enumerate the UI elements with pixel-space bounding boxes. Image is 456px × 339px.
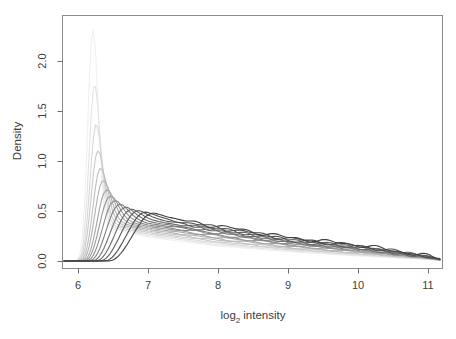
y-tick-label-0.0: 0.0 [36,253,48,268]
plot-canvas [0,0,456,339]
y-tick-label-1.5: 1.5 [36,103,48,118]
x-axis-title-subscript: 2 [236,316,240,325]
x-tick-label-7: 7 [145,279,151,291]
x-tick-label-6: 6 [75,279,81,291]
x-axis-title-prefix: log [221,309,236,321]
y-tick-label-2.0: 2.0 [36,53,48,68]
density-plot-figure: 6 7 8 9 10 11 0.0 0.5 1.0 1.5 2.0 log2in… [0,0,456,339]
density-curves [64,29,440,261]
x-tick-label-11: 11 [422,279,433,291]
x-tick-label-9: 9 [285,279,291,291]
x-axis-title: log2intensity [221,309,286,324]
y-tick-label-0.5: 0.5 [36,203,48,218]
x-axis-title-suffix: intensity [243,309,285,321]
x-tick-label-10: 10 [352,279,364,291]
y-tick-label-1.0: 1.0 [36,153,48,168]
x-tick-label-8: 8 [215,279,221,291]
y-axis-title: Density [11,122,23,160]
